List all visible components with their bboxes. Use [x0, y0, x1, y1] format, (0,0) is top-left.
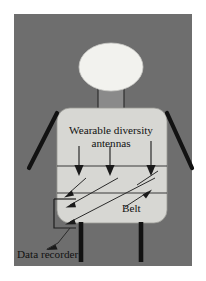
antennas-label-line1: Wearable diversity: [69, 124, 153, 136]
figure-root: Wearable diversity antennas Belt Data re…: [0, 0, 206, 281]
antennas-label-line2: antennas: [91, 137, 130, 149]
data-recorder-label: Data recorder: [17, 248, 78, 260]
figure-head: [79, 43, 143, 91]
belt-label: Belt: [122, 202, 142, 214]
wearable-antenna-diagram: Wearable diversity antennas Belt Data re…: [0, 0, 206, 281]
